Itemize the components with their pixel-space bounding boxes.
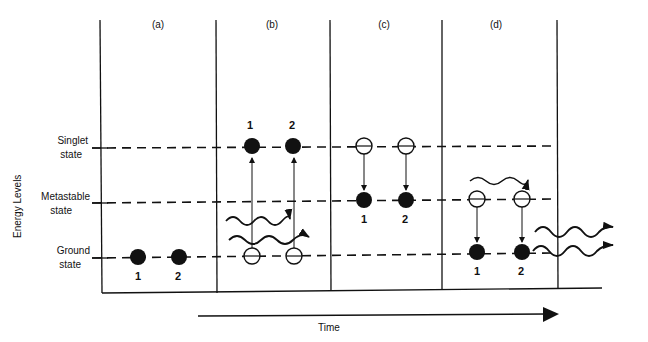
electron-1-label: 1 xyxy=(135,270,141,282)
panel-b: 1 2 xyxy=(226,119,309,264)
panel-a-label: (a) xyxy=(152,19,164,30)
electron-1-label: 1 xyxy=(474,265,480,277)
emitted-photon-icon xyxy=(533,245,613,256)
ground-label-line1: Ground xyxy=(57,245,90,256)
ground-label-line2: state xyxy=(59,259,81,270)
electron-filled-icon xyxy=(285,138,301,154)
energy-level-diagram: Energy Levels Singlet state Metastable s… xyxy=(0,0,648,342)
electron-filled-icon xyxy=(130,249,146,265)
metastable-label-line2: state xyxy=(50,205,72,216)
panel-a: 1 2 xyxy=(130,249,187,282)
energy-level-lines xyxy=(92,146,557,258)
electron-filled-icon xyxy=(469,244,485,260)
panel-c: 1 2 xyxy=(356,138,414,225)
panel-d-label: (d) xyxy=(490,19,502,30)
baseline xyxy=(102,288,602,293)
electron-filled-icon xyxy=(514,244,530,260)
y-axis-label: Energy Levels xyxy=(12,175,23,238)
electron-filled-icon xyxy=(244,138,260,154)
panel-c-label: (c) xyxy=(378,19,390,30)
stimulating-photon-icon xyxy=(470,178,528,185)
singlet-level-line xyxy=(92,146,557,148)
electron-filled-icon xyxy=(398,192,414,208)
emitted-photon-icon xyxy=(535,227,613,237)
level-ticks xyxy=(92,148,108,258)
electron-1-label: 1 xyxy=(361,213,367,225)
level-labels: Singlet state Metastable state Ground st… xyxy=(41,135,90,270)
electron-1-label: 1 xyxy=(247,119,253,131)
panel-d: 1 2 xyxy=(469,178,613,278)
electron-2-label: 2 xyxy=(289,119,295,131)
time-arrow-icon xyxy=(198,314,546,316)
electron-2-label: 2 xyxy=(175,270,181,282)
photon-wave-icon xyxy=(229,235,309,244)
singlet-label-line1: Singlet xyxy=(57,135,88,146)
singlet-label-line2: state xyxy=(60,149,82,160)
panel-b-label: (b) xyxy=(266,19,278,30)
metastable-label-line1: Metastable xyxy=(41,191,90,202)
electron-2-label: 2 xyxy=(402,213,408,225)
x-axis-label: Time xyxy=(318,322,340,333)
electron-2-label: 2 xyxy=(518,265,524,277)
electron-filled-icon xyxy=(356,192,372,208)
metastable-level-line xyxy=(92,199,557,203)
photon-wave-icon xyxy=(226,216,290,225)
ground-level-line xyxy=(92,253,557,258)
electron-filled-icon xyxy=(171,249,187,265)
panel-dividers xyxy=(100,20,558,293)
